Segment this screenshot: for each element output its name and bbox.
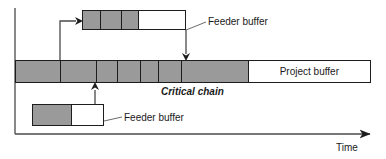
top-feeder-task-1 xyxy=(83,11,101,29)
critical-chain-task-2 xyxy=(61,61,97,82)
time-axis-label: Time xyxy=(336,142,358,153)
critical-chain-task-7 xyxy=(182,61,249,82)
bottom-feeding-chain-bar xyxy=(32,104,104,126)
critical-chain-label: Critical chain xyxy=(161,86,224,97)
top-feeder-buffer-segment xyxy=(139,11,185,29)
critical-chain-task-6 xyxy=(159,61,182,82)
critical-chain-task-5 xyxy=(141,61,159,82)
top-feeder-task-2 xyxy=(101,11,123,29)
top-feeding-chain-bar xyxy=(82,10,186,30)
critical-chain-task-1 xyxy=(16,61,61,82)
critical-chain-bar: Project buffer xyxy=(15,60,371,83)
top-feeder-task-3 xyxy=(122,11,139,29)
bottom-feeder-buffer-segment xyxy=(72,105,103,125)
project-buffer-segment: Project buffer xyxy=(249,61,370,82)
leader-line-bottom-feeder-buffer xyxy=(104,117,122,121)
bottom-feeder-task-1 xyxy=(33,105,72,125)
connector-bottom-feeder-to-critical-arrowhead xyxy=(91,82,99,90)
project-buffer-label: Project buffer xyxy=(280,66,339,77)
critical-chain-diagram: Project buffer Feeder buffer Critical ch… xyxy=(0,0,386,159)
critical-chain-task-3 xyxy=(97,61,119,82)
feeder-buffer-top-label: Feeder buffer xyxy=(208,16,268,27)
feeder-buffer-bottom-label: Feeder buffer xyxy=(124,112,184,123)
critical-chain-task-4 xyxy=(118,61,141,82)
connector-critical-to-top-feeder xyxy=(60,21,76,60)
leader-line-top-feeder-buffer xyxy=(186,22,206,30)
